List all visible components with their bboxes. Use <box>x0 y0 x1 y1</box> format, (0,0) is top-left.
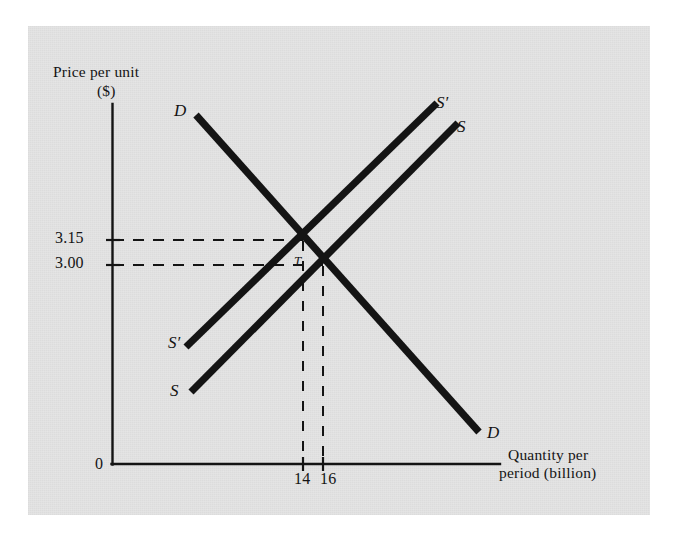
supply-curve-shifted <box>186 103 437 347</box>
demand-curve <box>196 115 479 432</box>
chart-axes <box>112 104 501 465</box>
supply-curve <box>191 123 458 392</box>
origin-label: 0 <box>95 455 103 473</box>
x-axis-title-line1: Quantity per <box>508 446 588 463</box>
x-tick-label-14: 14 <box>294 470 310 488</box>
supply-curve-label-bottom: S <box>170 381 179 400</box>
demand-curve-label-bottom: D <box>487 423 499 442</box>
supply-shifted-label-bottom: S′ <box>168 333 180 352</box>
tax-marker-label: T <box>294 254 301 269</box>
guide-lines <box>113 240 323 462</box>
demand-curve-label-top: D <box>174 101 186 120</box>
y-axis-title-line2: ($) <box>97 82 116 99</box>
supply-shifted-label-top: S′ <box>436 93 448 112</box>
x-axis-title-line2: period (billion) <box>499 464 596 481</box>
x-tick-label-16: 16 <box>320 470 336 488</box>
y-tick-label-3-00: 3.00 <box>55 254 84 272</box>
figure-page: Price per unit ($) Quantity per period (… <box>0 0 678 539</box>
y-tick-label-3-15: 3.15 <box>55 229 84 247</box>
supply-curve-label-top: S <box>457 117 466 136</box>
y-axis-title-line1: Price per unit <box>53 63 139 80</box>
